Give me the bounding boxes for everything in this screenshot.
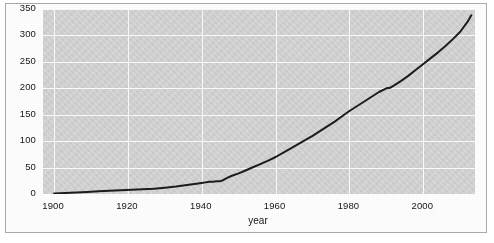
- y-tick-label-200: 200: [0, 81, 36, 92]
- axis-labels-layer: 0501001502002503003501900192019401960198…: [0, 0, 494, 243]
- y-tick-label-300: 300: [0, 28, 36, 39]
- x-tick-label-1940: 1940: [190, 200, 212, 211]
- y-tick-label-150: 150: [0, 108, 36, 119]
- y-tick-label-100: 100: [0, 134, 36, 145]
- y-tick-label-0: 0: [0, 187, 36, 198]
- x-tick-label-1920: 1920: [116, 200, 138, 211]
- x-tick-label-1900: 1900: [42, 200, 64, 211]
- y-tick-label-350: 350: [0, 2, 36, 13]
- x-tick-label-2000: 2000: [412, 200, 434, 211]
- y-tick-label-250: 250: [0, 55, 36, 66]
- x-tick-label-1960: 1960: [264, 200, 286, 211]
- x-axis-title: year: [248, 215, 267, 226]
- x-tick-label-1980: 1980: [338, 200, 360, 211]
- y-tick-label-50: 50: [0, 161, 36, 172]
